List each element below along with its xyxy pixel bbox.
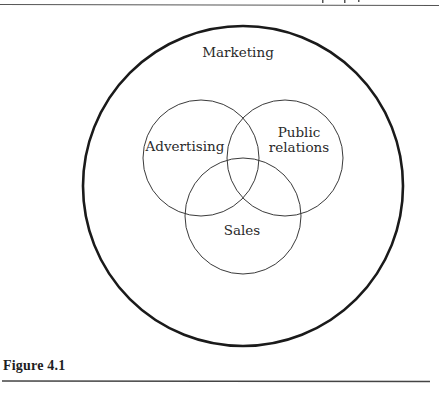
venn-diagram: Marketing Advertising Public relations S…: [0, 0, 439, 396]
figure-caption: Figure 4.1: [3, 358, 65, 374]
marketing-label: Marketing: [202, 44, 274, 60]
figure-page: Marketing Advertising Public relations S…: [0, 0, 439, 396]
top-rule: [0, 5, 439, 6]
clipped-header-fragments: [322, 0, 360, 3]
bottom-rule: [2, 381, 430, 382]
advertising-label: Advertising: [145, 138, 225, 154]
public-relations-label-line2: relations: [269, 139, 329, 155]
public-relations-label-line1: Public: [278, 124, 321, 140]
sales-label: Sales: [224, 222, 261, 238]
marketing-circle: [83, 26, 403, 346]
